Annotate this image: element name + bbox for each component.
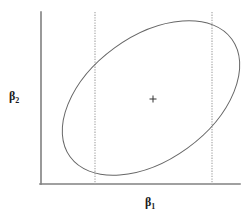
x-axis-label: β1 — [145, 196, 155, 211]
x-axis-label-subscript: 1 — [151, 202, 155, 211]
y-axis-label-subscript: 2 — [15, 96, 19, 105]
y-axis-label: β2 — [9, 90, 19, 105]
confidence-region-plot — [0, 0, 251, 219]
plot-background — [0, 0, 251, 219]
